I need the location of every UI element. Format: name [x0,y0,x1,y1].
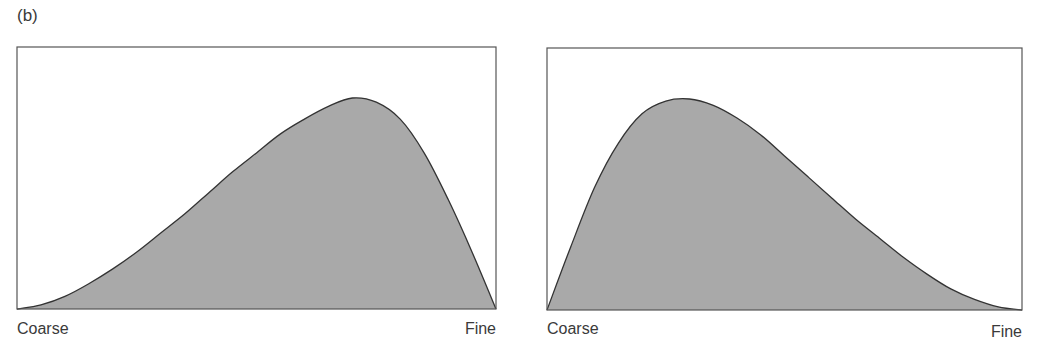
figure-canvas: Coarse Fine Coarse Fine [0,0,1037,352]
area-left [17,98,496,309]
xlabel-left-fine: Fine [465,320,496,337]
xlabel-right-coarse: Coarse [547,320,599,337]
xlabel-left-coarse: Coarse [17,320,69,337]
area-right [547,99,1022,310]
xlabel-right-fine: Fine [991,323,1022,340]
chart-left: Coarse Fine [17,47,496,337]
chart-right: Coarse Fine [547,48,1022,340]
